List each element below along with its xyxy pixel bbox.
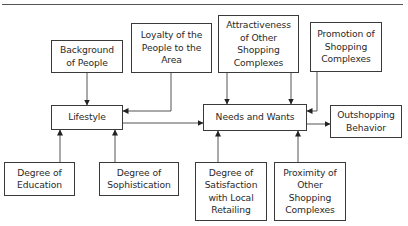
node-attractiveness-other-complexes: Attractiveness of Other Shopping Complex… [218,15,299,73]
node-satisfaction-local-retailing: Degree of Satisfaction with Local Retail… [195,162,267,221]
node-loyalty-to-area: Loyalty of the People to the Area [131,23,212,73]
node-proximity-other-complexes: Proximity of Other Shopping Complexes [274,162,346,221]
node-promotion-shopping-complexes: Promotion of Shopping Complexes [310,22,382,72]
node-outshopping-behavior: Outshopping Behavior [330,105,402,138]
node-background-of-people: Background of People [51,40,123,73]
node-needs-and-wants: Needs and Wants [203,104,307,131]
node-degree-of-sophistication: Degree of Sophistication [99,162,179,196]
node-degree-of-education: Degree of Education [4,162,75,196]
node-lifestyle: Lifestyle [51,105,123,130]
